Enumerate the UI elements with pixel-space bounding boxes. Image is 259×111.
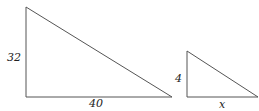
large-height-label: 32	[7, 51, 21, 64]
small-triangle	[187, 51, 258, 97]
large-base-label: 40	[88, 97, 103, 110]
large-triangle	[26, 7, 172, 97]
similar-triangles-diagram: 32 40 4 x	[0, 0, 259, 111]
small-base-label: x	[219, 98, 226, 111]
small-height-label: 4	[174, 72, 182, 85]
